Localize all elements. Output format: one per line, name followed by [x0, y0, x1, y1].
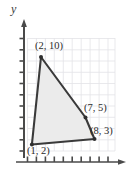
- y-axis: [20, 19, 27, 158]
- vertex-dot-2-10: [39, 55, 43, 59]
- x-axis-ticks: [28, 157, 109, 163]
- vertex-dot-7-5: [84, 116, 88, 120]
- coordinate-plane-svg: [0, 0, 127, 172]
- point-label-2-10: (2, 10): [35, 41, 63, 52]
- vertex-dot-8-3: [93, 137, 97, 141]
- y-axis-label: y: [11, 3, 16, 15]
- point-label-8-3: (8, 3): [90, 126, 113, 137]
- y-axis-arrowhead: [21, 19, 27, 27]
- point-label-7-5: (7, 5): [84, 103, 107, 114]
- coordinate-plane-figure: y (2, 10) (7, 5) (8, 3) (1, 2): [0, 0, 127, 172]
- x-axis-arrowhead: [118, 159, 126, 165]
- x-axis: [16, 157, 126, 165]
- point-label-1-2: (1, 2): [27, 146, 50, 157]
